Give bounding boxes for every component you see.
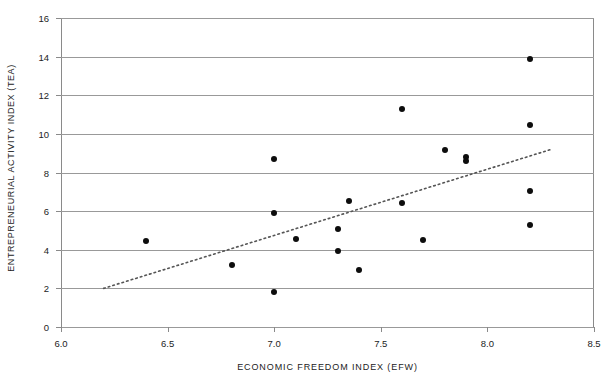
x-tick-mark — [274, 327, 275, 332]
x-tick-mark — [381, 327, 382, 332]
data-point — [527, 188, 533, 194]
plot-area — [61, 18, 594, 327]
y-tick-label: 6 — [19, 206, 49, 217]
data-point — [346, 198, 352, 204]
data-point — [229, 262, 235, 268]
data-point — [335, 248, 341, 254]
y-tick-mark — [56, 250, 61, 251]
data-point — [463, 158, 469, 164]
y-tick-mark — [56, 173, 61, 174]
data-point — [335, 226, 341, 232]
x-tick-label: 6.0 — [41, 338, 81, 349]
y-tick-label: 8 — [19, 167, 49, 178]
x-tick-label: 8.5 — [574, 338, 614, 349]
y-tick-mark — [56, 18, 61, 19]
data-point — [527, 56, 533, 62]
y-tick-mark — [56, 57, 61, 58]
y-tick-label: 12 — [19, 90, 49, 101]
y-tick-label: 14 — [19, 51, 49, 62]
scatter-chart-figure: ENTREPRENEURIAL ACTIVITY INDEX (TEA) 024… — [0, 0, 614, 391]
x-tick-mark — [168, 327, 169, 332]
x-tick-label: 6.5 — [148, 338, 188, 349]
y-tick-label: 16 — [19, 13, 49, 24]
x-tick-label: 7.5 — [361, 338, 401, 349]
y-tick-mark — [56, 134, 61, 135]
y-axis-title-text: ENTREPRENEURIAL ACTIVITY INDEX (TEA) — [6, 64, 16, 272]
data-point — [527, 222, 533, 228]
gridline-y-0 — [61, 327, 594, 328]
y-tick-label: 0 — [19, 322, 49, 333]
x-tick-label: 7.0 — [254, 338, 294, 349]
data-point — [399, 106, 405, 112]
y-tick-mark — [56, 211, 61, 212]
y-tick-label: 4 — [19, 244, 49, 255]
x-tick-label: 8.0 — [467, 338, 507, 349]
x-tick-mark — [61, 327, 62, 332]
y-tick-mark — [56, 288, 61, 289]
x-tick-mark — [594, 327, 595, 332]
trendline — [61, 18, 594, 327]
y-tick-label: 10 — [19, 128, 49, 139]
y-tick-label: 2 — [19, 283, 49, 294]
trendline-path — [104, 149, 552, 288]
x-axis-title: ECONOMIC FREEDOM INDEX (EFW) — [61, 362, 594, 372]
y-tick-mark — [56, 95, 61, 96]
x-tick-mark — [487, 327, 488, 332]
data-point — [293, 236, 299, 242]
